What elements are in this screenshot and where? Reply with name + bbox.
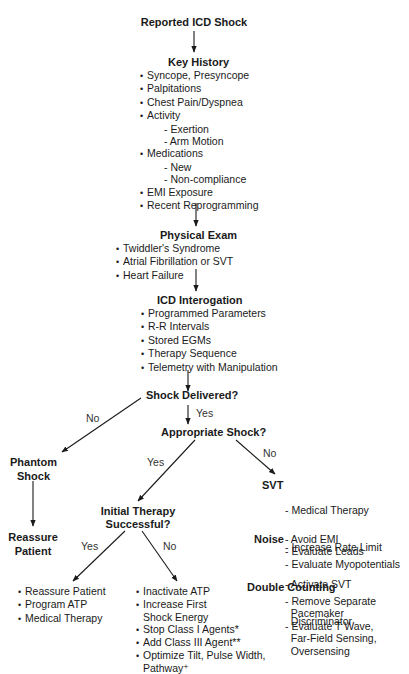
- icd-interrogation-item: Therapy Sequence: [141, 347, 278, 360]
- icd-interrogation-item: R-R Intervals: [141, 320, 278, 333]
- node-reassure-patient-line2: Patient: [3, 544, 63, 558]
- noise-action-item: - Avoid EMI: [285, 533, 400, 545]
- key-history-subitem: Exertion: [140, 123, 258, 135]
- success-action-item: Reassure Patient: [18, 585, 106, 598]
- key-history-list: Syncope, Presyncope Palpitations Chest P…: [140, 69, 258, 212]
- physical-exam-item: Atrial Fibrillation or SVT: [116, 255, 233, 268]
- failure-actions-list: Inactivate ATP Increase First Shock Ener…: [136, 585, 266, 674]
- failure-action-item: Stop Class I Agents*: [136, 623, 266, 636]
- key-history-item: EMI Exposure: [140, 186, 258, 199]
- decision-initial-therapy: Initial Therapy Successful?: [100, 505, 176, 531]
- node-icd-interrogation-title: ICD Interogation: [157, 294, 243, 306]
- node-phantom-shock: Phantom Shock: [6, 455, 61, 483]
- cause-svt-label: SVT: [262, 479, 283, 491]
- failure-action-continuation: Pathway⁺: [136, 662, 266, 674]
- edge-label-yes: Yes: [81, 540, 98, 552]
- failure-action-item: Add Class III Agent**: [136, 636, 266, 649]
- key-history-subitem: Non-compliance: [140, 173, 258, 185]
- node-phantom-shock-line2: Shock: [6, 469, 61, 483]
- edge-label-yes: Yes: [147, 456, 164, 468]
- key-history-item: Recent Reprogramming: [140, 199, 258, 212]
- icd-interrogation-list: Programmed Parameters R-R Intervals Stor…: [141, 307, 278, 374]
- success-action-item: Medical Therapy: [18, 612, 106, 625]
- edge-label-no: No: [263, 447, 276, 459]
- noise-action-item: - Evaluate Myopotentials: [285, 558, 400, 570]
- key-history-subitem: New: [140, 161, 258, 173]
- double-counting-action-item: Oversensing: [285, 645, 377, 657]
- key-history-subitem: Arm Motion: [140, 135, 258, 147]
- double-counting-action-item: Far-Field Sensing,: [285, 632, 377, 644]
- success-action-item: Program ATP: [18, 598, 106, 611]
- node-key-history-title: Key History: [168, 56, 229, 68]
- double-counting-action-item: - Remove Separate: [285, 595, 377, 607]
- noise-action-item: - Evaluate Leads: [285, 545, 400, 557]
- key-history-item: Syncope, Presyncope: [140, 69, 258, 82]
- key-history-item: Activity: [140, 109, 258, 122]
- key-history-item: Chest Pain/Dyspnea: [140, 96, 258, 109]
- node-reported-icd-shock: Reported ICD Shock: [134, 16, 254, 28]
- failure-action-item: Optimize Tilt, Pulse Width,: [136, 649, 266, 662]
- cause-noise-label: Noise: [254, 533, 284, 545]
- icd-interrogation-item: Programmed Parameters: [141, 307, 278, 320]
- failure-action-item: Increase First: [136, 598, 266, 611]
- decision-initial-therapy-line1: Initial Therapy: [100, 505, 176, 518]
- physical-exam-item: Twiddler's Syndrome: [116, 242, 233, 255]
- double-counting-actions-list: - Remove Separate Pacemaker - Evaluate T…: [285, 595, 377, 657]
- edge-label-no: No: [86, 412, 99, 424]
- key-history-item: Palpitations: [140, 82, 258, 95]
- key-history-item: Medications: [140, 147, 258, 160]
- physical-exam-item: Heart Failure: [116, 269, 233, 282]
- decision-initial-therapy-line2: Successful?: [100, 518, 176, 531]
- icd-interrogation-item: Telemetry with Manipulation: [141, 361, 278, 374]
- icd-interrogation-item: Stored EGMs: [141, 334, 278, 347]
- node-physical-exam-title: Physical Exam: [160, 229, 237, 241]
- edge-label-no: No: [163, 540, 176, 552]
- noise-actions-list: - Avoid EMI - Evaluate Leads - Evaluate …: [285, 533, 400, 570]
- physical-exam-list: Twiddler's Syndrome Atrial Fibrillation …: [116, 242, 233, 282]
- node-phantom-shock-line1: Phantom: [6, 455, 61, 469]
- cause-double-counting-label: Double Counting: [247, 581, 336, 593]
- double-counting-action-item: Pacemaker: [285, 607, 377, 619]
- node-reassure-patient-line1: Reassure: [3, 530, 63, 544]
- success-actions-list: Reassure Patient Program ATP Medical The…: [18, 585, 106, 625]
- svt-action-item: - Medical Therapy: [285, 504, 382, 516]
- edge-label-yes: Yes: [196, 407, 213, 419]
- double-counting-action-item: - Evaluate T Wave,: [285, 620, 377, 632]
- failure-action-continuation: Shock Energy: [136, 611, 266, 623]
- node-reassure-patient: Reassure Patient: [3, 530, 63, 558]
- decision-shock-delivered: Shock Delivered?: [146, 389, 238, 401]
- decision-appropriate-shock: Appropriate Shock?: [161, 426, 266, 438]
